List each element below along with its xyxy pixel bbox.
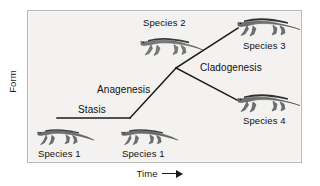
- caption-species-2: Species 2: [143, 17, 186, 28]
- arrow-right-icon: [162, 169, 184, 178]
- annotation-anagenesis: Anagenesis: [97, 84, 150, 95]
- caption-species-1-left: Species 1: [38, 148, 81, 159]
- annotation-cladogenesis: Cladogenesis: [200, 62, 262, 73]
- lizard-illustration-species2: [138, 32, 204, 58]
- x-axis-label: Time: [136, 168, 157, 179]
- lizard-illustration-species1-left: [34, 122, 96, 147]
- y-axis-label: Form: [7, 61, 18, 103]
- evolution-lineage-figure: Form: [0, 0, 320, 186]
- lizard-illustration-species4: [235, 89, 301, 115]
- x-axis-label-group: Time: [0, 168, 320, 179]
- lizard-illustration-species1-right: [118, 122, 180, 147]
- caption-species-4: Species 4: [243, 115, 286, 126]
- lizard-illustration-species3: [235, 13, 301, 39]
- caption-species-3: Species 3: [243, 40, 286, 51]
- annotation-stasis: Stasis: [78, 104, 106, 115]
- caption-species-1-right: Species 1: [122, 148, 165, 159]
